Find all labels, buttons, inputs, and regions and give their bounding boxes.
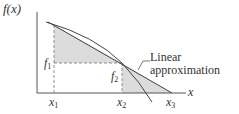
x1-label: x1 [49,96,58,110]
y-axis-label: f(x) [3,2,21,15]
x-axis-label: x [188,86,193,98]
annotation-line1: Linear [150,51,181,63]
f1-label: f1 [44,57,51,71]
x2-label: x2 [117,96,126,110]
annotation-line2: approximation [150,64,220,76]
annotation-leader [138,61,150,70]
x3-label: x3 [166,96,175,110]
linear-approximation-diagram: f(x) x x1 x2 x3 f1 f2 Linear approximati… [0,0,239,114]
f2-label: f2 [111,70,118,84]
